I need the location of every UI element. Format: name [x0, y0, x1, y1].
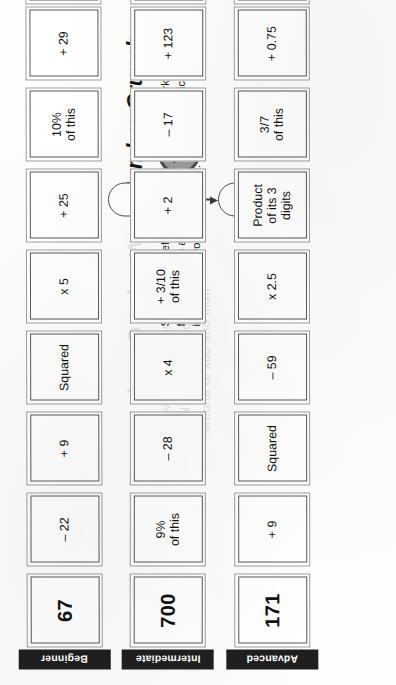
- step-box-value: + 0.75: [237, 9, 306, 76]
- step-box-value: + 25: [29, 171, 98, 238]
- step-box: 3/7of this: [234, 87, 310, 161]
- step-box-value: 3/7of this: [237, 90, 306, 157]
- step-box-value: Squared: [238, 414, 307, 481]
- page-canvas: Number Crunch Starting at the left with …: [0, 0, 396, 685]
- answer-box-value: [134, 0, 203, 1]
- difficulty-tag-intermediate: Intermediate: [122, 649, 214, 669]
- step-box-value: 9%of this: [133, 495, 202, 562]
- step-box: + 2: [130, 168, 206, 242]
- answer-box-value: [29, 0, 98, 1]
- answer-box[interactable]: [25, 0, 101, 4]
- puzzle-rows: Beginner67– 22+ 9Squaredx 5+ 2510%of thi…: [18, 0, 330, 669]
- puzzle-row: Advanced171+ 9Squared– 59x 2.5Productof …: [226, 0, 321, 669]
- step-box-value: x 4: [133, 333, 202, 400]
- step-box: x 2.5: [234, 249, 310, 323]
- step-box-value: + 29: [29, 9, 98, 76]
- step-box: 10%of this: [26, 87, 102, 161]
- step-box: + 29: [25, 6, 101, 80]
- step-box: 9%of this: [130, 492, 206, 566]
- step-box: x 5: [26, 249, 102, 323]
- difficulty-tag-advanced: Advanced: [226, 649, 318, 669]
- step-box-value: 10%of this: [29, 90, 98, 157]
- start-number-box: 700: [130, 573, 206, 647]
- step-box-value: + 9: [30, 414, 99, 481]
- step-box: x 4: [130, 330, 206, 404]
- step-box-value: – 59: [238, 333, 307, 400]
- step-box-value: x 5: [29, 252, 98, 319]
- answer-box-value: [237, 0, 306, 1]
- step-box: – 17: [130, 87, 206, 161]
- step-box: + 0.75: [234, 6, 310, 80]
- answer-box[interactable]: [234, 0, 310, 4]
- step-box: – 59: [234, 330, 310, 404]
- start-number-box: 171: [234, 573, 310, 647]
- step-box-value: + 3/10of this: [133, 252, 202, 319]
- step-box-value: Productof its 3digits: [237, 171, 306, 238]
- step-box: + 123: [130, 6, 206, 80]
- step-box-value: + 9: [238, 495, 307, 562]
- puzzle-row: Intermediate7009%of this– 28x 4+ 3/10of …: [122, 0, 217, 669]
- start-number-box: 67: [27, 573, 103, 647]
- step-box-value: x 2.5: [237, 252, 306, 319]
- difficulty-tag-label: Advanced: [246, 653, 298, 665]
- step-box-value: + 2: [134, 171, 203, 238]
- step-box-value: – 22: [30, 495, 99, 562]
- step-box: + 25: [26, 168, 102, 242]
- difficulty-tag-label: Intermediate: [135, 653, 200, 665]
- difficulty-tag-beginner: Beginner: [19, 649, 111, 669]
- step-box: Squared: [26, 330, 102, 404]
- start-number-box-value: 67: [30, 576, 99, 643]
- step-box: Productof its 3digits: [234, 168, 310, 242]
- step-box: + 9: [26, 411, 102, 485]
- puzzle-row: Beginner67– 22+ 9Squaredx 5+ 2510%of thi…: [17, 0, 113, 669]
- step-box-value: Squared: [30, 333, 99, 400]
- step-box: + 9: [234, 492, 310, 566]
- step-box-value: – 28: [133, 414, 202, 481]
- step-box-value: + 123: [134, 9, 203, 76]
- step-box: – 28: [130, 411, 206, 485]
- step-box-value: – 17: [134, 90, 203, 157]
- step-box: + 3/10of this: [130, 249, 206, 323]
- difficulty-tag-label: Beginner: [41, 653, 88, 665]
- start-number-box-value: 700: [133, 576, 202, 643]
- step-box: Squared: [234, 411, 310, 485]
- step-box: – 22: [26, 492, 102, 566]
- worksheet-sheet: Number Crunch Starting at the left with …: [0, 0, 396, 685]
- start-number-box-value: 171: [238, 576, 307, 643]
- answer-box[interactable]: [130, 0, 206, 4]
